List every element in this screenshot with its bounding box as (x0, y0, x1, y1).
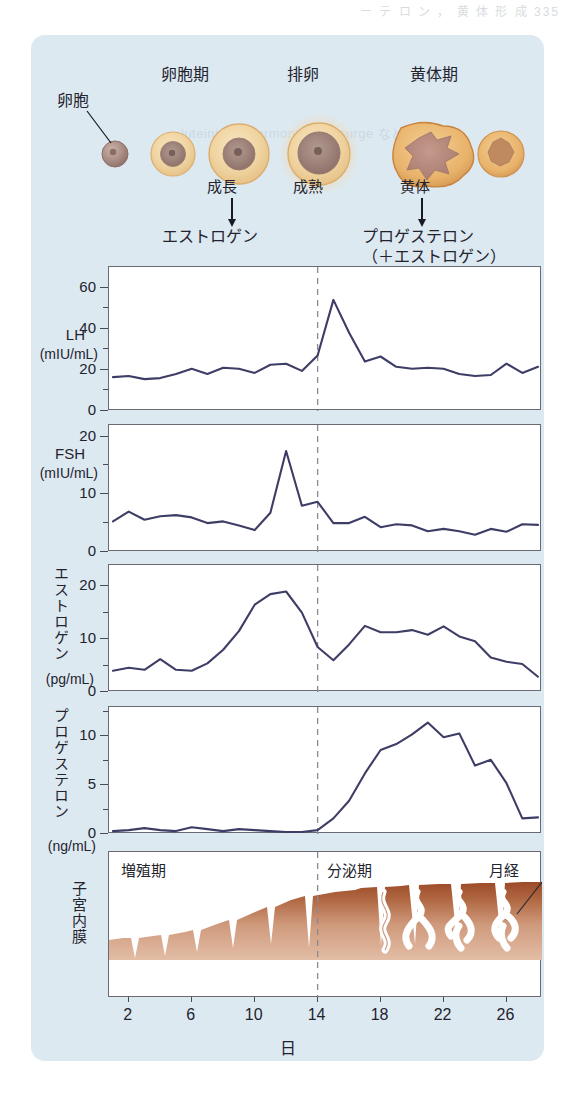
ytick-label: 20 (60, 576, 96, 593)
ytick-mark (103, 665, 108, 666)
xtick-label: 2 (108, 1006, 148, 1024)
ytick-mark (103, 711, 108, 712)
ytick-mark (100, 691, 108, 692)
hormone-label-progesterone: プロゲステロン (362, 227, 474, 247)
ytick-mark (100, 436, 108, 437)
xtick-mark (128, 997, 129, 1002)
ytick-label: 40 (60, 319, 96, 336)
endometrium-label-proliferative: 増殖期 (121, 859, 166, 880)
stage-label-corpus-luteum: 黄体 (400, 175, 430, 196)
ytick-mark (100, 287, 108, 288)
chart-panel-progesterone (108, 706, 541, 833)
ytick-label: 0 (60, 682, 96, 699)
stage-label-growth: 成長 (207, 175, 237, 196)
yunit-fsh: (mIU/mL) (32, 465, 98, 481)
chart-panel-endometrium (108, 851, 541, 997)
phase-label-ovulation: 排卵 (287, 61, 319, 85)
ytick-label: 10 (60, 484, 96, 501)
menstrual-cycle-figure-card: luteinizing hormone (LH) surge などと 卵胞期 排… (31, 35, 544, 1061)
estrogen-arrow-icon (231, 198, 233, 220)
ytick-mark (103, 760, 108, 761)
chart-line-progesterone (109, 707, 542, 834)
xtick-label: 14 (297, 1006, 337, 1024)
ytick-label: 20 (60, 360, 96, 377)
xtick-label: 6 (171, 1006, 211, 1024)
ytick-label: 0 (60, 542, 96, 559)
ytick-mark (103, 522, 108, 523)
ytick-label: 20 (60, 427, 96, 444)
ytick-label: 60 (60, 278, 96, 295)
xtick-label: 26 (486, 1006, 526, 1024)
chart-panel-lh (108, 266, 541, 410)
phase-label-follicular: 卵胞期 (161, 61, 209, 85)
xtick-label: 18 (360, 1006, 400, 1024)
progesterone-arrow-icon (421, 198, 423, 220)
ovum-label: 卵胞 (57, 87, 89, 111)
ytick-label: 0 (60, 824, 96, 841)
follicle-stage-6-corpus-albicans (478, 131, 524, 177)
follicle-stage-2 (151, 132, 195, 176)
ytick-mark (100, 585, 108, 586)
chart-line-fsh (109, 425, 542, 552)
ytick-mark (100, 493, 108, 494)
ytick-mark (100, 735, 108, 736)
xtick-mark (191, 997, 192, 1002)
hormone-label-estrogen: エストロゲン (162, 227, 258, 247)
ytick-mark (100, 784, 108, 785)
phase-label-luteal: 黄体期 (410, 61, 458, 85)
xtick-mark (254, 997, 255, 1002)
ytick-mark (100, 551, 108, 552)
ytick-label: 5 (60, 775, 96, 792)
xaxis-title: 日 (31, 1035, 544, 1059)
endometrium-label-menstruation: 月経 (489, 859, 519, 880)
ytick-mark (100, 328, 108, 329)
endometrium-illustration (109, 852, 542, 998)
ytick-mark (103, 612, 108, 613)
xtick-mark (317, 997, 318, 1002)
stage-label-mature: 成熟 (293, 175, 323, 196)
ytick-label: 10 (60, 629, 96, 646)
page-bleed-through-top: ー テ ロ ン ， 黄 体 形 成 335 (300, 2, 560, 18)
ytick-mark (103, 348, 108, 349)
ytick-label: 10 (60, 726, 96, 743)
follicle-stage-1 (102, 141, 128, 167)
ytick-mark (100, 638, 108, 639)
endometrium-label-secretory: 分泌期 (327, 859, 372, 880)
xtick-mark (506, 997, 507, 1002)
chart-line-lh (109, 267, 542, 411)
ylabel-endometrium: 子宮内膜 (71, 881, 86, 967)
ytick-label: 0 (60, 401, 96, 418)
ytick-mark (100, 833, 108, 834)
ytick-mark (103, 809, 108, 810)
xtick-label: 22 (423, 1006, 463, 1024)
ytick-mark (100, 369, 108, 370)
xtick-mark (380, 997, 381, 1002)
xtick-mark (443, 997, 444, 1002)
ytick-mark (100, 410, 108, 411)
xtick-label: 10 (234, 1006, 274, 1024)
hormone-label-progesterone-sub: （＋エストロゲン） (362, 247, 506, 267)
ylabel-fsh: FSH (37, 445, 85, 462)
ytick-mark (103, 307, 108, 308)
chart-line-estrogen (109, 565, 542, 692)
chart-panel-estrogen (108, 564, 541, 691)
chart-panel-fsh (108, 424, 541, 551)
ytick-mark (103, 464, 108, 465)
ytick-mark (103, 389, 108, 390)
